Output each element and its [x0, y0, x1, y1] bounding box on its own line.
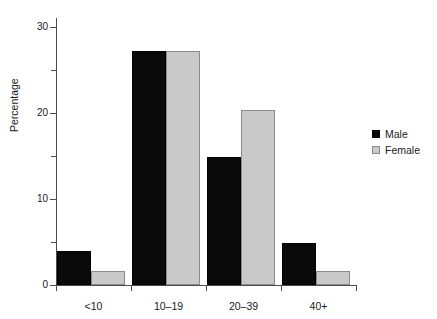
y-axis-title: Percentage: [8, 118, 20, 132]
y-tick-minor: [51, 70, 56, 71]
y-tick-minor: [51, 242, 56, 243]
legend-item-female: Female: [372, 142, 420, 158]
x-tick: [356, 285, 357, 291]
y-tick-label: 30: [37, 22, 48, 32]
y-axis-line: [56, 18, 57, 285]
y-tick-label: 20: [37, 108, 48, 118]
y-tick-label: 10: [37, 194, 48, 204]
x-tick-label: 10–19: [154, 301, 183, 312]
bar-female-3: [316, 271, 350, 285]
bar-male-2: [207, 157, 241, 285]
bar-chart-figure: Percentage 0102030 <1010–1920–3940+ Male…: [0, 0, 437, 319]
legend-label: Female: [385, 142, 420, 158]
legend-label: Male: [385, 126, 408, 142]
legend-item-male: Male: [372, 126, 420, 142]
legend-swatch-icon: [372, 130, 380, 138]
y-tick-major: [50, 199, 56, 200]
chart-title: [0, 0, 437, 2]
y-tick-major: [50, 113, 56, 114]
y-tick-major: [50, 27, 56, 28]
bar-male-1: [132, 51, 166, 285]
y-tick-label: 0: [42, 280, 48, 290]
bar-female-0: [91, 271, 125, 285]
chart-legend: MaleFemale: [372, 126, 420, 158]
x-tick: [56, 285, 57, 291]
bar-male-0: [57, 251, 91, 285]
y-tick-minor: [51, 156, 56, 157]
x-tick: [206, 285, 207, 291]
x-tick: [281, 285, 282, 291]
x-tick: [131, 285, 132, 291]
x-tick-label: 20–39: [229, 301, 258, 312]
bar-female-1: [166, 51, 200, 285]
bar-male-3: [282, 243, 316, 285]
x-tick-label: <10: [85, 301, 103, 312]
x-tick-label: 40+: [310, 301, 328, 312]
bar-female-2: [241, 110, 275, 285]
legend-swatch-icon: [372, 146, 380, 154]
plot-area: 0102030 <1010–1920–3940+: [56, 18, 356, 285]
